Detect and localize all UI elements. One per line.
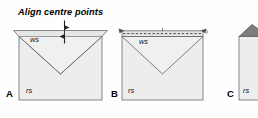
diagram-svg xyxy=(0,0,258,118)
panel-b-label-ws: ws xyxy=(139,37,148,46)
panel-letter-c: C xyxy=(227,88,234,99)
panel-letter-a: A xyxy=(6,88,13,99)
panel-letter-b: B xyxy=(111,88,118,99)
panel-c-label-rs: rs xyxy=(243,86,249,95)
figure-canvas: Align centre points xyxy=(0,0,258,118)
panel-b-label-rs: rs xyxy=(128,86,134,95)
panel-a-label-ws: ws xyxy=(30,35,39,44)
panel-b-right-sliver xyxy=(206,30,209,34)
panel-a-flap xyxy=(14,31,108,37)
sliver-mark xyxy=(206,30,209,34)
panel-c-folded-triangle xyxy=(239,25,258,37)
panel-a-label-rs: rs xyxy=(26,86,32,95)
